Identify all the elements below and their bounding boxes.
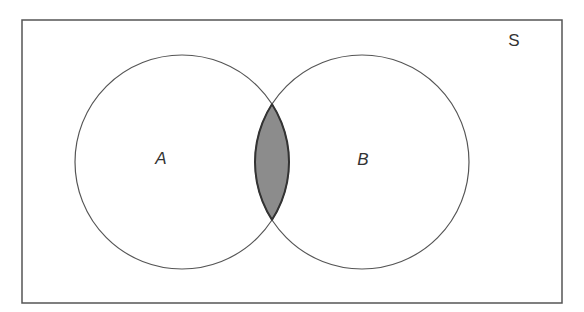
- set-b-label: B: [357, 150, 368, 169]
- venn-diagram: A B S: [0, 0, 584, 312]
- universe-rectangle: [22, 20, 562, 303]
- universe-label: S: [508, 31, 519, 50]
- set-a-label: A: [154, 149, 166, 168]
